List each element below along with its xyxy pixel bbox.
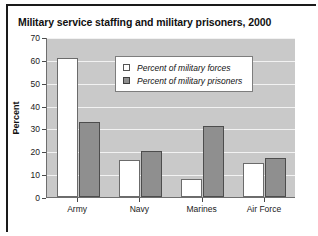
y-axis-tick-label: 30 bbox=[31, 124, 40, 134]
legend-label-prisoners: Percent of military prisoners bbox=[137, 76, 242, 86]
y-axis-label-container: Percent bbox=[10, 38, 22, 198]
gridline bbox=[47, 107, 295, 108]
legend-swatch-forces-icon bbox=[123, 64, 130, 71]
y-axis-tick-label: 20 bbox=[31, 147, 40, 157]
x-axis: ArmyNavyMarinesAir Force bbox=[46, 198, 295, 222]
bar bbox=[181, 179, 202, 197]
legend-item-forces: Percent of military forces bbox=[123, 61, 242, 74]
x-axis-tick-mark bbox=[139, 198, 140, 202]
bar bbox=[203, 126, 224, 197]
bar bbox=[57, 58, 78, 197]
x-axis-tick-label: Air Force bbox=[247, 204, 281, 214]
x-axis-tick-label: Navy bbox=[130, 204, 149, 214]
bar bbox=[79, 122, 100, 197]
y-axis-tick-label: 0 bbox=[35, 193, 40, 203]
y-axis-tick-label: 10 bbox=[31, 170, 40, 180]
x-axis-tick-label: Marines bbox=[187, 204, 217, 214]
bar bbox=[119, 160, 140, 197]
chart-figure: Military service staffing and military p… bbox=[6, 4, 316, 232]
bar bbox=[265, 158, 286, 197]
y-axis-tick-label: 40 bbox=[31, 102, 40, 112]
y-axis-tick-label: 60 bbox=[31, 56, 40, 66]
gridline bbox=[47, 38, 295, 39]
legend-item-prisoners: Percent of military prisoners bbox=[123, 74, 242, 87]
chart-title: Military service staffing and military p… bbox=[18, 16, 271, 28]
legend-label-forces: Percent of military forces bbox=[137, 63, 231, 73]
legend-swatch-prisoners-icon bbox=[123, 77, 130, 84]
x-axis-tick-mark bbox=[202, 198, 203, 202]
x-axis-tick-label: Army bbox=[67, 204, 87, 214]
y-axis-tick-label: 70 bbox=[31, 33, 40, 43]
bar bbox=[243, 163, 264, 197]
bar bbox=[141, 151, 162, 197]
chart-figure-inner: Military service staffing and military p… bbox=[8, 6, 316, 232]
y-axis-tick-label: 50 bbox=[31, 79, 40, 89]
chart-legend: Percent of military forces Percent of mi… bbox=[115, 56, 253, 92]
y-axis-label: Percent bbox=[11, 101, 21, 134]
x-axis-tick-mark bbox=[77, 198, 78, 202]
x-axis-tick-mark bbox=[264, 198, 265, 202]
